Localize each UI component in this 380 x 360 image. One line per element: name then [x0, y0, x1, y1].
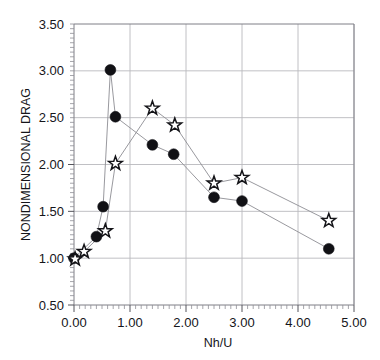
data-point-circle [168, 149, 179, 160]
data-point-circle [147, 139, 158, 150]
y-axis-tick-label: 3.00 [39, 63, 64, 78]
y-axis-tick-label: 3.50 [39, 17, 64, 32]
data-point-star [207, 176, 221, 189]
y-axis-title: NONDIMENSIONAL DRAG [19, 88, 33, 241]
chart-plot-svg: 0.501.001.502.002.503.003.500.001.002.00… [0, 0, 380, 360]
data-point-circle [105, 65, 116, 76]
data-point-circle [110, 111, 121, 122]
y-axis-tick-label: 1.50 [39, 204, 64, 219]
data-point-circle [237, 196, 248, 207]
x-axis-tick-label: 0.00 [61, 315, 86, 330]
y-axis-tick-label: 1.00 [39, 251, 64, 266]
data-point-circle [98, 201, 109, 212]
data-point-circle [323, 243, 334, 254]
x-axis-tick-label: 1.00 [117, 315, 142, 330]
y-axis-tick-label: 2.00 [39, 157, 64, 172]
y-axis-tick-label: 2.50 [39, 110, 64, 125]
chart-container: 0.501.001.502.002.503.003.500.001.002.00… [0, 0, 380, 360]
data-point-star [322, 214, 336, 227]
x-axis-tick-label: 2.00 [173, 315, 198, 330]
data-point-star [109, 156, 123, 169]
x-axis-tick-label: 3.00 [229, 315, 254, 330]
star-series-line [75, 108, 329, 259]
data-point-circle [209, 192, 220, 203]
x-axis-tick-label: 4.00 [285, 315, 310, 330]
data-point-circle [91, 231, 102, 242]
x-axis-title: Nh/U [204, 336, 232, 350]
data-point-star [168, 118, 182, 131]
y-axis-tick-label: 0.50 [39, 298, 64, 313]
x-axis-tick-label: 5.00 [341, 315, 366, 330]
